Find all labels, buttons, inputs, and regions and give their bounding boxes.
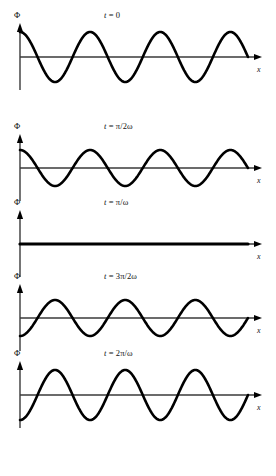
wave-panel: Φxt = 0 [0, 9, 276, 96]
y-axis-arrowhead [17, 210, 23, 219]
time-equals: = [106, 10, 115, 20]
time-equals: = [106, 121, 115, 131]
time-label: t = 2π/ω [104, 348, 133, 358]
y-axis-label: Φ [14, 122, 20, 131]
wave-panel: Φxt = 3π/2ω [0, 270, 276, 357]
x-axis-arrowhead [254, 54, 262, 60]
x-axis-label: x [257, 177, 261, 185]
wave-plot-panel-t2piw [0, 347, 276, 434]
x-axis-label: x [257, 404, 261, 412]
time-value: 3π/2ω [116, 271, 137, 281]
time-value: 0 [116, 10, 120, 20]
x-axis-label: x [257, 327, 261, 335]
x-axis-arrowhead [254, 392, 262, 398]
time-equals: = [106, 271, 115, 281]
time-value: π/2ω [116, 121, 133, 131]
time-equals: = [106, 348, 115, 358]
x-axis-arrowhead [254, 165, 262, 171]
wave-panel: Φxt = 2π/ω [0, 347, 276, 434]
time-value: 2π/ω [116, 348, 133, 358]
y-axis-arrowhead [17, 134, 23, 143]
x-axis-arrowhead [254, 315, 262, 321]
x-axis-arrowhead [254, 241, 262, 247]
x-axis-label: x [257, 66, 261, 74]
wave-plot-panel-tpi2w [0, 120, 276, 207]
wave-panel: Φxt = π/2ω [0, 120, 276, 207]
y-axis-label: Φ [14, 198, 20, 207]
wave-plot-panel-t3pi2w [0, 270, 276, 357]
time-value: π/ω [116, 197, 129, 207]
time-label: t = π/ω [104, 197, 128, 207]
y-axis-label: Φ [14, 349, 20, 358]
wave-plot-panel-t0 [0, 9, 276, 96]
time-label: t = 0 [104, 10, 120, 20]
time-label: t = π/2ω [104, 121, 133, 131]
time-equals: = [106, 197, 115, 207]
y-axis-arrowhead [17, 23, 23, 32]
y-axis-label: Φ [14, 11, 20, 20]
time-label: t = 3π/2ω [104, 271, 137, 281]
y-axis-arrowhead [17, 284, 23, 293]
y-axis-label: Φ [14, 272, 20, 281]
x-axis-label: x [257, 253, 261, 261]
y-axis-arrowhead [17, 361, 23, 370]
wave-snapshot-figure: Φxt = 0Φxt = π/2ωΦxt = π/ωΦxt = 3π/2ωΦxt… [0, 0, 276, 476]
